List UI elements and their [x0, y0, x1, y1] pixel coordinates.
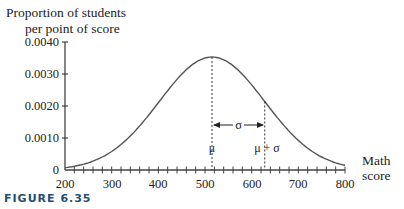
x-axis-label-line1: Math	[362, 153, 391, 168]
normal-curve-chart: Proportion of students per point of scor…	[0, 0, 404, 209]
y-tick-label: 0	[53, 163, 59, 177]
x-tick-label: 400	[149, 177, 168, 191]
normal-curve	[65, 57, 345, 168]
mu-label: μ	[209, 141, 215, 155]
y-tick-label: 0.0010	[25, 131, 59, 145]
sigma-label: σ	[235, 118, 242, 132]
y-tick-label: 0.0030	[25, 67, 59, 81]
x-tick-label: 300	[103, 177, 122, 191]
x-tick-label: 600	[243, 177, 262, 191]
x-tick-label: 800	[336, 177, 355, 191]
y-axis-label-line1: Proportion of students	[6, 5, 126, 20]
mu-plus-sigma-label: μ + σ	[254, 141, 280, 155]
y-tick-label: 0.0020	[25, 99, 59, 113]
x-tick-label: 500	[196, 177, 215, 191]
x-axis-label-line2: score	[362, 168, 390, 183]
y-tick-label: 0.0040	[25, 35, 59, 49]
y-axis-label-line2: per point of score	[25, 21, 120, 36]
x-tick-label: 700	[289, 177, 308, 191]
x-tick-label: 200	[56, 177, 75, 191]
figure-caption: FIGURE 6.35	[4, 192, 92, 205]
